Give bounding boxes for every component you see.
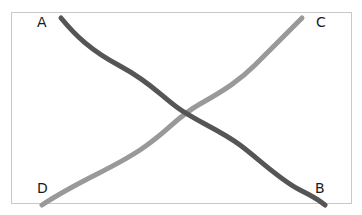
- line-a-to-b: [61, 18, 325, 205]
- label-b: B: [315, 181, 325, 195]
- label-d: D: [37, 181, 48, 195]
- label-a: A: [37, 15, 47, 29]
- crossing-lines: [0, 0, 362, 215]
- line-d-to-c: [42, 18, 302, 205]
- label-c: C: [316, 15, 326, 29]
